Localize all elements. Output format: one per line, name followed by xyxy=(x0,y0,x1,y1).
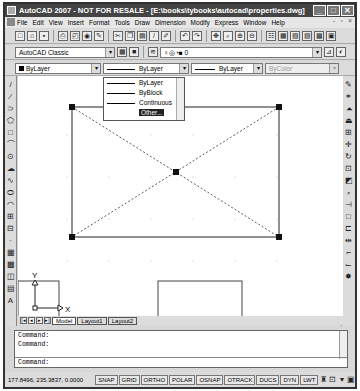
ellipse-arc-icon[interactable]: ◠ xyxy=(6,200,15,209)
mtext-icon[interactable]: A xyxy=(6,296,15,305)
make-current-layer-icon[interactable]: ⊿ xyxy=(324,47,334,57)
break-at-point-icon[interactable]: □ xyxy=(344,212,353,221)
menu-insert[interactable]: Insert xyxy=(68,19,84,26)
preview-icon[interactable]: ◰ xyxy=(70,31,80,41)
make-block-icon[interactable]: ⊟ xyxy=(6,224,15,233)
revcloud-icon[interactable]: ☁ xyxy=(6,164,15,173)
linetype-select[interactable]: ByLayer▾ xyxy=(103,63,189,74)
copy-icon[interactable]: ❐ xyxy=(125,31,135,41)
workspace-select[interactable]: AutoCAD Classic▾ xyxy=(15,47,115,58)
redo-icon[interactable]: ↷ xyxy=(192,31,202,41)
tab-layout2[interactable]: Layout2 xyxy=(108,317,137,325)
menu-express[interactable]: Express xyxy=(215,19,238,26)
zoom-previous-icon[interactable]: ⊖ xyxy=(247,31,257,41)
explode-icon[interactable]: ✸ xyxy=(344,272,353,281)
menu-tools[interactable]: Tools xyxy=(115,19,130,26)
lwt-toggle[interactable]: LWT xyxy=(300,375,318,385)
osnap-toggle[interactable]: OSNAP xyxy=(196,375,223,385)
insert-block-icon[interactable]: ⊞ xyxy=(6,212,15,221)
polygon-icon[interactable]: ⬠ xyxy=(6,116,15,125)
copy-object-icon[interactable]: ⚭ xyxy=(344,92,353,101)
tool-palettes-icon[interactable]: ▧ xyxy=(290,31,300,41)
snap-toggle[interactable]: SNAP xyxy=(95,375,117,385)
workspace-save-icon[interactable]: ■ xyxy=(129,47,139,57)
region-icon[interactable]: ◫ xyxy=(6,272,15,281)
menu-file[interactable]: File xyxy=(17,19,27,26)
ellipse-icon[interactable]: ⬭ xyxy=(6,188,15,197)
rotate-icon[interactable]: ↻ xyxy=(344,152,353,161)
ducs-toggle[interactable]: DUCS xyxy=(256,375,279,385)
menu-format[interactable]: Format xyxy=(89,19,110,26)
erase-icon[interactable]: ✎ xyxy=(344,80,353,89)
undo-icon[interactable]: ↶ xyxy=(180,31,190,41)
menu-window[interactable]: Window xyxy=(243,19,266,26)
lock-icon[interactable]: ⊡ xyxy=(329,375,337,384)
trim-icon[interactable]: ⸗ xyxy=(344,188,353,197)
sheetset-icon[interactable]: ▨ xyxy=(302,31,312,41)
publish-icon[interactable]: ◉ xyxy=(82,31,92,41)
color-select[interactable]: ByLayer▾ xyxy=(15,63,101,74)
lineweight-select[interactable]: ByLayer▾ xyxy=(191,63,263,74)
mirror-icon[interactable]: ⏶ xyxy=(344,104,353,113)
command-input[interactable]: Command: xyxy=(15,357,347,367)
offset-icon[interactable]: ⏏ xyxy=(344,116,353,125)
menu-help[interactable]: Help xyxy=(271,19,284,26)
linetype-option-continuous[interactable]: Continuous xyxy=(104,98,184,108)
linetype-option-byblock[interactable]: ByBlock xyxy=(104,88,184,98)
linetype-option-bylayer[interactable]: ByLayer xyxy=(104,78,184,88)
close-button[interactable]: ✕ xyxy=(341,5,354,16)
join-icon[interactable]: ⇹ xyxy=(344,236,353,245)
grip[interactable] xyxy=(69,104,75,110)
line-icon[interactable]: / xyxy=(6,80,15,89)
menu-modify[interactable]: Modify xyxy=(191,19,210,26)
paste-icon[interactable]: ▤ xyxy=(137,31,147,41)
hatch-icon[interactable]: ▦ xyxy=(6,248,15,257)
comm-center-icon[interactable]: ♜ xyxy=(319,375,327,384)
arc-icon[interactable]: ⌒ xyxy=(6,140,15,149)
array-icon[interactable]: ⊞ xyxy=(344,128,353,137)
extend-icon[interactable]: ⊣ xyxy=(344,200,353,209)
gradient-icon[interactable]: ▩ xyxy=(6,260,15,269)
match-prop-icon[interactable]: / xyxy=(149,31,159,41)
tab-model[interactable]: Model xyxy=(52,317,76,325)
circle-icon[interactable]: ⊙ xyxy=(6,152,15,161)
dyn-toggle[interactable]: DYN xyxy=(280,375,299,385)
maximize-button[interactable]: □ xyxy=(327,5,340,16)
next-tab-button[interactable]: ▸ xyxy=(36,317,43,324)
clean-screen-icon[interactable]: ▣ xyxy=(347,375,355,384)
quickcalc-icon[interactable]: ▣ xyxy=(326,31,336,41)
otrack-toggle[interactable]: OTRACK xyxy=(224,375,255,385)
chamfer-icon[interactable]: ⌐ xyxy=(344,248,353,257)
polyline-icon[interactable]: ⊃ xyxy=(6,104,15,113)
layer-manager-icon[interactable]: ≋ xyxy=(148,47,158,57)
construction-line-icon[interactable]: ⁄ xyxy=(6,92,15,101)
move-icon[interactable]: ✛ xyxy=(344,140,353,149)
cut-icon[interactable]: ✂ xyxy=(113,31,123,41)
doc-close-button[interactable]: × xyxy=(348,17,352,24)
zoom-window-icon[interactable]: ⊕ xyxy=(235,31,245,41)
new-icon[interactable]: □ xyxy=(15,31,25,41)
first-tab-button[interactable]: |◂ xyxy=(20,317,27,324)
grip[interactable] xyxy=(69,234,75,240)
designcenter-icon[interactable]: ▦ xyxy=(278,31,288,41)
point-icon[interactable]: · xyxy=(6,236,15,245)
tab-layout1[interactable]: Layout1 xyxy=(77,317,106,325)
minimize-button[interactable]: _ xyxy=(313,5,326,16)
polar-toggle[interactable]: POLAR xyxy=(169,375,195,385)
layer-previous-icon[interactable]: ◐ xyxy=(336,47,346,57)
last-tab-button[interactable]: ▸| xyxy=(44,317,51,324)
doc-minimize-button[interactable]: - xyxy=(333,17,335,24)
table-icon[interactable]: ▤ xyxy=(6,284,15,293)
ortho-toggle[interactable]: ORTHO xyxy=(141,375,169,385)
block-editor-icon[interactable]: ✐ xyxy=(161,31,171,41)
properties-icon[interactable]: ☷ xyxy=(266,31,276,41)
save-icon[interactable]: ▪ xyxy=(39,31,49,41)
menu-arrow-icon[interactable]: ▾ xyxy=(338,375,346,384)
grip[interactable] xyxy=(276,104,282,110)
rectangle-icon[interactable]: □ xyxy=(6,128,15,137)
plot-icon[interactable]: ⎙ xyxy=(58,31,68,41)
grid-toggle[interactable]: GRID xyxy=(119,375,140,385)
spline-icon[interactable]: ∿ xyxy=(6,176,15,185)
zoom-realtime-icon[interactable]: ⌕ xyxy=(223,31,233,41)
grip[interactable] xyxy=(276,234,282,240)
